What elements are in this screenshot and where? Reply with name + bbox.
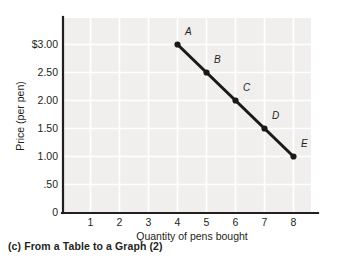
y-axis-tick-labels: $3.00 2.50 2.00 1.50 1.00 .50 0 xyxy=(32,38,58,219)
data-point-label-b: B xyxy=(214,54,221,65)
y-tick-label-250: 2.50 xyxy=(38,66,59,78)
x-axis-tick-labels: 1 2 3 4 5 6 7 8 xyxy=(88,216,297,228)
data-point-label-c: C xyxy=(243,82,251,93)
x-tick-label-8: 8 xyxy=(291,216,297,228)
data-point-c xyxy=(232,97,238,103)
figure-caption: (c)From a Table to a Graph (2) xyxy=(8,240,163,252)
x-tick-label-3: 3 xyxy=(146,216,152,228)
data-point-a xyxy=(174,41,180,47)
y-tick-label-100: 1.00 xyxy=(38,150,59,162)
price-quantity-line-chart: $3.00 2.50 2.00 1.50 1.00 .50 0 1 2 3 4 … xyxy=(0,0,342,262)
data-point-b xyxy=(203,69,209,75)
y-tick-label-200: 2.00 xyxy=(38,94,59,106)
data-point-d xyxy=(261,125,267,131)
figure-caption-index: (c) xyxy=(8,240,21,252)
figure-container: $3.00 2.50 2.00 1.50 1.00 .50 0 1 2 3 4 … xyxy=(0,0,342,262)
y-tick-label-050: .50 xyxy=(43,178,58,190)
x-tick-label-2: 2 xyxy=(117,216,123,228)
x-tick-label-4: 4 xyxy=(175,216,181,228)
x-tick-label-6: 6 xyxy=(233,216,239,228)
y-tick-label-300: $3.00 xyxy=(32,38,58,50)
data-point-label-a: A xyxy=(184,26,192,37)
y-axis-title: Price (per pen) xyxy=(14,81,26,150)
x-tick-label-7: 7 xyxy=(262,216,268,228)
data-point-label-e: E xyxy=(301,138,308,149)
y-tick-label-150: 1.50 xyxy=(38,122,59,134)
x-tick-label-1: 1 xyxy=(88,216,94,228)
y-tick-label-0: 0 xyxy=(52,206,58,218)
data-point-e xyxy=(290,153,296,159)
x-tick-label-5: 5 xyxy=(204,216,210,228)
data-point-label-d: D xyxy=(272,110,279,121)
figure-caption-text: From a Table to a Graph (2) xyxy=(24,240,162,252)
